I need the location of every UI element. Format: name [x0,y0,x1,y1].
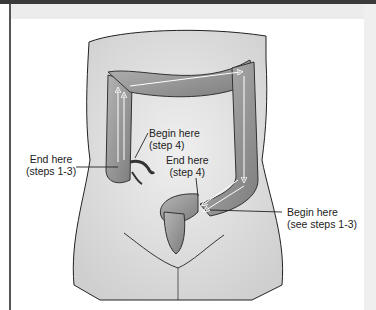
label-line2: (see steps 1-3) [287,218,357,230]
label-line1: Begin here [287,206,357,218]
label-begin-here-step-4: Begin here (step 4) [149,127,200,151]
label-line1: End here [26,153,76,165]
label-line2: (steps 1-3) [26,165,76,177]
label-line1: End here [166,154,209,166]
label-end-here-steps-1-3: End here (steps 1-3) [26,153,76,177]
label-begin-here-see-steps-1-3: Begin here (see steps 1-3) [287,206,357,230]
label-line2: (step 4) [149,139,200,151]
label-line1: Begin here [149,127,200,139]
label-line2: (step 4) [166,166,209,178]
label-end-here-step-4: End here (step 4) [166,154,209,178]
